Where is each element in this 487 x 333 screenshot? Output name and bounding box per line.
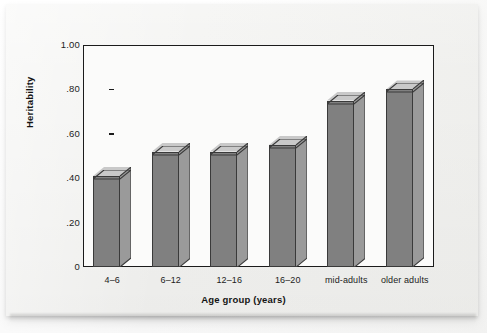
y-tick-label: .60 <box>36 129 80 139</box>
y-tick-label: .20 <box>36 218 80 228</box>
bar-column[interactable] <box>386 80 413 267</box>
x-axis-title: Age group (years) <box>0 294 487 305</box>
plot-frame <box>83 45 434 267</box>
bar-top-outline <box>93 167 131 178</box>
y-tick-label: .40 <box>36 173 80 183</box>
y-tick-mark <box>109 89 114 91</box>
bar-column[interactable] <box>210 143 237 267</box>
x-tick-label: older adults <box>360 276 450 285</box>
bar-side-outline <box>93 167 131 267</box>
bar-column[interactable] <box>269 136 296 267</box>
bar-column[interactable] <box>327 92 354 268</box>
bar-side-outline <box>327 92 365 268</box>
bar-top-outline <box>386 80 424 91</box>
bar-column[interactable] <box>152 143 179 267</box>
bar-top-outline <box>152 143 190 154</box>
bar-side-outline <box>152 143 190 267</box>
bar-top-outline <box>327 92 365 103</box>
bar-top-outline <box>269 136 307 147</box>
y-tick-label: 1.00 <box>36 40 80 50</box>
y-tick-label: 0 <box>36 262 80 272</box>
bar-chart: 0.20.40.60.801.00 Heritability Age group… <box>0 0 487 333</box>
y-axis-ticks: 0.20.40.60.801.00 <box>30 45 80 267</box>
bar-side-outline <box>269 136 307 267</box>
bar-side-outline <box>210 143 248 267</box>
bar-column[interactable] <box>93 167 120 267</box>
bar-top-outline <box>210 143 248 154</box>
y-axis-title: Heritability <box>24 77 35 129</box>
bar-side-outline <box>386 80 424 267</box>
y-tick-mark <box>109 133 114 135</box>
y-tick-label: .80 <box>36 84 80 94</box>
